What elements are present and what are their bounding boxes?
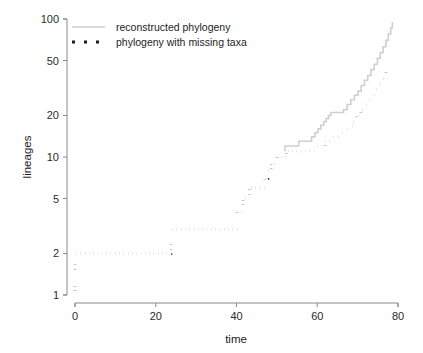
x-tick-label: 60: [311, 310, 323, 322]
y-axis-title: lineages: [21, 135, 33, 178]
y-tick-label: 100: [41, 13, 59, 25]
x-tick-label: 20: [150, 310, 162, 322]
x-tick-label: 40: [230, 310, 242, 322]
chart-canvas: 125102050100 020406080 reconstructed phy…: [0, 0, 423, 353]
y-tick-label: 5: [53, 193, 59, 205]
y-tick-label: 10: [47, 151, 59, 163]
legend-dot-swatch: [96, 41, 99, 44]
legend-label: phylogeny with missing taxa: [116, 36, 247, 48]
legend-label: reconstructed phylogeny: [116, 21, 231, 33]
lineage-through-time-chart: 125102050100 020406080 reconstructed phy…: [0, 0, 423, 353]
x-tick-label: 0: [72, 310, 78, 322]
y-tick-label: 20: [47, 109, 59, 121]
chart-background: [0, 0, 423, 353]
y-tick-label: 50: [47, 55, 59, 67]
x-axis-title: time: [225, 333, 247, 345]
y-tick-label: 1: [53, 289, 59, 301]
legend-dot-swatch: [72, 41, 75, 44]
legend-dot-swatch: [84, 41, 87, 44]
x-tick-label: 80: [392, 310, 404, 322]
y-tick-label: 2: [53, 247, 59, 259]
